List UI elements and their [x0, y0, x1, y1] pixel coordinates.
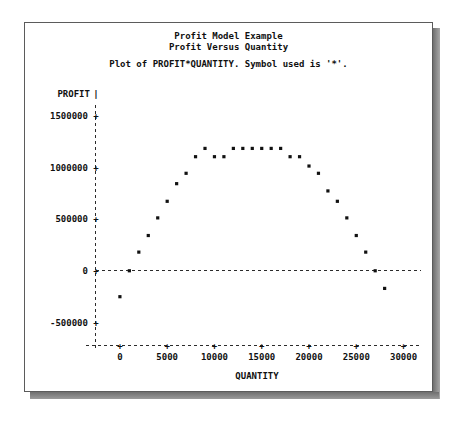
- x-tick-glyph: +: [401, 341, 407, 351]
- data-point: [364, 251, 367, 254]
- y-tick-glyph: +: [93, 163, 99, 173]
- data-point: [166, 200, 169, 203]
- data-point: [241, 147, 244, 150]
- data-point: [317, 172, 320, 175]
- x-tick-glyph: +: [354, 341, 360, 351]
- y-tick-label: -500000: [50, 318, 88, 328]
- data-point: [345, 216, 348, 219]
- y-tick-label: 500000: [55, 214, 88, 224]
- scatter-plot: PROFIT|QUANTITY +-500000+0+500000+100000…: [25, 23, 433, 392]
- data-point: [355, 234, 358, 237]
- data-point: [128, 269, 131, 272]
- data-point: [307, 164, 310, 167]
- x-tick-label: 30000: [390, 352, 417, 362]
- y-tick-glyph: +: [93, 111, 99, 121]
- x-tick-glyph: +: [259, 341, 265, 351]
- data-point: [288, 155, 291, 158]
- y-tick-glyph: +: [93, 214, 99, 224]
- axis-lines-group: [86, 105, 421, 349]
- panel-shadow-right: [433, 28, 440, 399]
- data-point: [260, 147, 263, 150]
- data-point: [118, 295, 121, 298]
- axis-labels-group: PROFIT|QUANTITY: [57, 89, 279, 381]
- x-tick-label: 25000: [343, 352, 370, 362]
- x-tick-label: 5000: [156, 352, 178, 362]
- x-tick-label: 15000: [248, 352, 275, 362]
- y-tick-label: 1000000: [50, 163, 88, 173]
- x-axis-title: QUANTITY: [235, 371, 279, 381]
- x-tick-glyph: +: [164, 341, 170, 351]
- data-point: [147, 234, 150, 237]
- x-tick-label: 20000: [295, 352, 322, 362]
- data-point: [194, 155, 197, 158]
- x-tick-glyph: +: [212, 341, 218, 351]
- y-tick-label: 0: [82, 266, 87, 276]
- data-point: [203, 147, 206, 150]
- data-point: [222, 155, 225, 158]
- data-points-group: [118, 147, 386, 298]
- data-point: [336, 200, 339, 203]
- data-point: [184, 172, 187, 175]
- data-point: [232, 147, 235, 150]
- y-axis-cap-glyph: |: [93, 89, 98, 99]
- data-point: [383, 287, 386, 290]
- data-point: [326, 189, 329, 192]
- plot-panel: Profit Model Example Profit Versus Quant…: [24, 22, 433, 392]
- data-point: [175, 182, 178, 185]
- x-tick-label: 10000: [201, 352, 228, 362]
- plot-panel-wrapper: Profit Model Example Profit Versus Quant…: [24, 22, 433, 392]
- x-tick-label: 0: [117, 352, 122, 362]
- data-point: [156, 216, 159, 219]
- y-tick-glyph: +: [93, 266, 99, 276]
- data-point: [374, 269, 377, 272]
- panel-shadow-bottom: [30, 392, 439, 399]
- data-point: [251, 147, 254, 150]
- data-point: [270, 147, 273, 150]
- data-point: [137, 251, 140, 254]
- x-tick-glyph: +: [117, 341, 123, 351]
- data-point: [213, 155, 216, 158]
- data-point: [298, 155, 301, 158]
- x-tick-glyph: +: [306, 341, 312, 351]
- data-point: [279, 147, 282, 150]
- y-tick-glyph: +: [93, 318, 99, 328]
- y-tick-label: 1500000: [50, 111, 88, 121]
- y-axis-title: PROFIT: [57, 89, 90, 99]
